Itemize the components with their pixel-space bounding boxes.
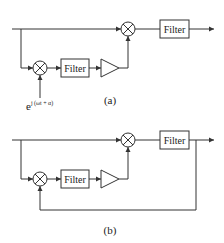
multiplier-icon [33,61,47,75]
multiplier-icon [121,133,135,147]
inner-filter-label: Filter [64,174,86,185]
amplifier-icon [101,170,119,188]
wire [119,36,128,68]
branch-line [21,140,33,179]
output-filter-label: Filter [164,135,186,146]
output-filter-label: Filter [164,24,186,35]
reference-signal-label: ej (ωt + α) [26,100,53,112]
amplifier-icon [101,59,119,77]
caption-b: (b) [104,224,117,237]
inner-filter-label: Filter [64,63,86,74]
multiplier-icon [33,172,47,186]
wire [119,147,128,179]
diagram-a: Filter ej (ωt + α) Filter (a) [12,20,214,112]
multiplier-icon [121,22,135,36]
block-diagrams: Filter ej (ωt + α) Filter (a) Filt [0,0,224,243]
caption-a: (a) [104,94,117,107]
branch-line [21,29,33,68]
diagram-b: Filter Filter (b) [12,131,214,237]
